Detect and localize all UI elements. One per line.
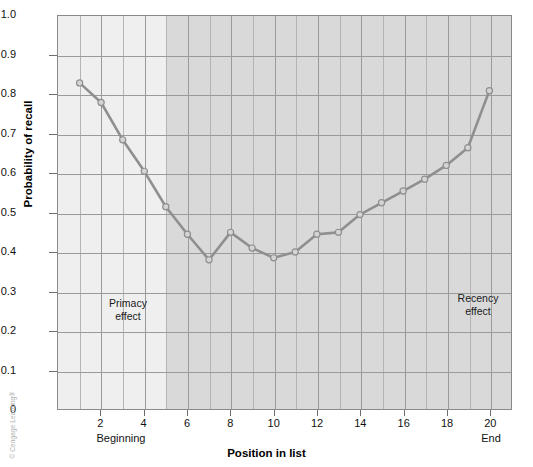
data-point — [271, 255, 277, 261]
y-tick-label: 0.9 — [0, 49, 16, 60]
data-point — [335, 229, 341, 235]
x-tick-label: 14 — [340, 418, 380, 429]
recall-curve — [58, 16, 511, 409]
data-point — [486, 88, 492, 94]
data-point — [120, 137, 126, 143]
data-point — [249, 245, 255, 251]
x-tick-label: 16 — [384, 418, 424, 429]
x-tick-mark — [230, 410, 231, 416]
data-point — [77, 80, 83, 86]
data-point — [292, 249, 298, 255]
y-tick-mark — [49, 331, 57, 332]
x-axis-end-label: End — [446, 432, 533, 444]
y-tick-mark — [49, 173, 57, 174]
x-tick-mark — [144, 410, 145, 416]
data-point — [141, 168, 147, 174]
y-axis-title: Probability of recall — [22, 64, 34, 244]
x-tick-mark — [274, 410, 275, 416]
x-tick-label: 20 — [470, 418, 510, 429]
x-tick-label: 6 — [167, 418, 207, 429]
y-tick-label: 1.0 — [0, 9, 16, 20]
copyright-notice: © Cengage Learning® — [9, 379, 16, 459]
y-tick-mark — [49, 213, 57, 214]
x-axis-begin-label: Beginning — [76, 432, 166, 444]
x-tick-mark — [100, 410, 101, 416]
annotation-recency: Recency effect — [438, 292, 512, 318]
data-point — [314, 231, 320, 237]
data-point — [98, 99, 104, 105]
y-tick-label: 0.5 — [0, 207, 16, 218]
x-tick-label: 10 — [254, 418, 294, 429]
x-axis-title: Position in list — [0, 447, 533, 459]
data-point — [400, 188, 406, 194]
data-point — [227, 229, 233, 235]
x-tick-mark — [317, 410, 318, 416]
y-tick-label: 0.4 — [0, 246, 16, 257]
plot-area: Primacy effect Recency effect — [57, 15, 512, 410]
y-tick-mark — [49, 371, 57, 372]
y-tick-mark — [49, 94, 57, 95]
data-point — [422, 176, 428, 182]
x-tick-mark — [187, 410, 188, 416]
data-point — [443, 162, 449, 168]
y-tick-label: 0.3 — [0, 286, 16, 297]
y-tick-label: 0.7 — [0, 128, 16, 139]
x-tick-mark — [447, 410, 448, 416]
data-point — [357, 212, 363, 218]
y-tick-mark — [49, 252, 57, 253]
y-tick-label: 0.6 — [0, 167, 16, 178]
y-tick-label: 0.1 — [0, 365, 16, 376]
y-tick-mark — [49, 292, 57, 293]
y-tick-label: 0.8 — [0, 88, 16, 99]
x-tick-mark — [490, 410, 491, 416]
data-point — [206, 257, 212, 263]
x-tick-mark — [404, 410, 405, 416]
serial-position-chart: 00.10.20.30.40.50.60.70.80.91.0 Primacy … — [0, 0, 533, 467]
x-tick-label: 18 — [427, 418, 467, 429]
y-tick-mark — [49, 55, 57, 56]
y-tick-mark — [49, 134, 57, 135]
data-point — [184, 231, 190, 237]
x-tick-label: 12 — [297, 418, 337, 429]
x-tick-mark — [360, 410, 361, 416]
x-tick-label: 2 — [80, 418, 120, 429]
data-point — [378, 200, 384, 206]
data-point — [465, 145, 471, 151]
annotation-primacy: Primacy effect — [88, 297, 168, 323]
data-point — [163, 204, 169, 210]
x-tick-label: 4 — [124, 418, 164, 429]
x-tick-label: 8 — [210, 418, 250, 429]
y-tick-label: 0.2 — [0, 325, 16, 336]
